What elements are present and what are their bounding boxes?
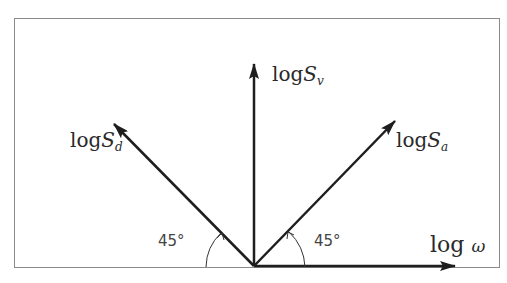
left-angle-arc	[206, 233, 221, 267]
sd-symbol: S	[101, 128, 115, 152]
sd-log-prefix: log	[70, 128, 101, 152]
tripartite-log-axes-diagram: logSv logSd logSa log ω 45° 45°	[0, 0, 507, 283]
omega-symbol: ω	[471, 236, 485, 256]
omega-axis-label: log ω	[430, 232, 485, 257]
sa-symbol: S	[427, 128, 441, 152]
sv-log-prefix: log	[272, 62, 303, 86]
left-angle-label: 45°	[158, 232, 185, 250]
sv-subscript: v	[317, 74, 324, 88]
right-angle-label: 45°	[314, 232, 341, 250]
sv-axis-label: logSv	[272, 62, 324, 88]
sa-axis-label: logSa	[396, 128, 448, 154]
sa-log-prefix: log	[396, 128, 427, 152]
sv-symbol: S	[303, 62, 317, 86]
sd-subscript: d	[115, 140, 123, 154]
right-angle-arc	[289, 232, 305, 267]
sd-axis-label: logSd	[70, 128, 123, 154]
omega-log-prefix: log	[430, 232, 464, 257]
sa-subscript: a	[441, 140, 448, 154]
